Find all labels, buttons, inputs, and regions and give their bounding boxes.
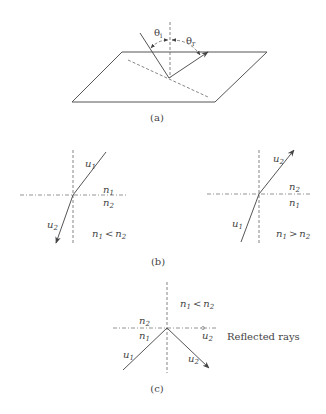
panel-b-left: u1 n1 n2 u2 n1<n2 [20, 150, 127, 243]
reflecting-plane [72, 52, 267, 102]
panel-c: n1<n2 n2 n1 u2 u1 u2 Reflected rays (c) [113, 282, 300, 394]
theta-i-label: θi [154, 27, 163, 40]
theta-i-arc [151, 40, 168, 48]
caption-a: (a) [150, 112, 164, 123]
condition-n1-gt-n2: n1>n2 [276, 228, 311, 241]
reflected-rays-note: Reflected rays [227, 331, 300, 342]
caption-b: (b) [151, 256, 165, 267]
label-u1: u1 [232, 218, 243, 231]
label-n2: n2 [103, 197, 114, 210]
label-n2: n2 [139, 315, 150, 328]
condition-n1-lt-n2: n1<n2 [180, 298, 215, 311]
condition-n1-lt-n2: n1<n2 [92, 228, 127, 241]
refracted-ray-u2 [56, 195, 73, 243]
label-u2: u2 [273, 153, 284, 166]
label-u1: u1 [123, 349, 134, 362]
label-n2: n2 [289, 181, 300, 194]
label-u1: u1 [85, 158, 96, 171]
label-u2-grazing: u2 [202, 330, 213, 343]
incident-ray [140, 33, 169, 78]
incident-ray-u1 [241, 194, 259, 242]
panel-b-right: u2 n2 n1 u1 n1>n2 [207, 150, 312, 243]
label-u2-reflected: u2 [188, 353, 199, 366]
caption-c: (c) [150, 383, 164, 394]
plane-of-incidence-trace [128, 60, 208, 97]
panel-a: θi θr (a) [72, 22, 267, 123]
label-u2: u2 [47, 219, 58, 232]
label-n1: n1 [139, 330, 150, 343]
label-n1: n1 [289, 197, 300, 210]
reflected-ray [169, 52, 208, 78]
refraction-reflection-figure: θi θr (a) u1 n1 n2 u2 n1<n2 [0, 0, 326, 414]
